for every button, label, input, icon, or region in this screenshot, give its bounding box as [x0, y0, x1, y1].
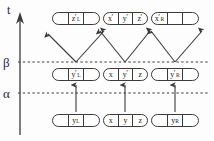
cell-empty[interactable] — [84, 69, 99, 80]
cell-subscript: R — [175, 119, 179, 125]
cell-empty[interactable] — [53, 69, 69, 80]
diagram-canvas: t β α z′Lx′y′z′x′Ry′Lxy′zy′RyLxyzyR — [0, 0, 214, 141]
cell-empty[interactable] — [168, 13, 184, 24]
bottom-left-capsule[interactable]: yL — [52, 114, 100, 127]
cell-prime-mark: ′ — [126, 70, 128, 78]
beta-left-capsule[interactable]: y′L — [52, 68, 100, 81]
cell-y-L[interactable]: yL — [69, 115, 85, 126]
cell-empty[interactable] — [84, 13, 99, 24]
cell-empty[interactable] — [152, 115, 168, 126]
cell-y-prime[interactable]: y′ — [119, 69, 134, 80]
cell-x[interactable]: x — [104, 115, 119, 126]
cell-subscript: L — [77, 17, 80, 23]
time-axis-label: t — [7, 4, 10, 16]
cell-z-prime[interactable]: z′ — [133, 13, 147, 24]
cell-y-prime-R[interactable]: y′R — [168, 69, 184, 80]
beta-level-label: β — [3, 56, 10, 69]
cell-subscript: R — [176, 73, 180, 79]
arrow-left-inward — [76, 31, 104, 62]
cell-subscript: R — [160, 17, 164, 23]
diagonal-transition-arrows — [48, 31, 202, 62]
cell-y-R[interactable]: yR — [168, 115, 184, 126]
bottom-middle-capsule[interactable]: xyz — [103, 114, 148, 127]
cell-x-prime[interactable]: x′ — [104, 13, 119, 24]
cell-empty[interactable] — [183, 69, 198, 80]
cell-empty[interactable] — [84, 115, 99, 126]
time-axis — [16, 12, 24, 135]
cell-subscript: L — [76, 119, 79, 125]
top-left-capsule[interactable]: z′L — [52, 12, 100, 25]
top-middle-capsule[interactable]: x′y′z′ — [103, 12, 148, 25]
cell-base-symbol: x — [109, 117, 113, 125]
cell-base-symbol: z — [138, 71, 142, 79]
arrow-right-inward — [151, 31, 175, 62]
arrow-middle-right — [125, 31, 150, 62]
cell-z[interactable]: z — [133, 115, 147, 126]
cell-base-symbol: z — [138, 117, 142, 125]
cell-y-prime[interactable]: y′ — [119, 13, 134, 24]
alpha-level-label: α — [3, 87, 10, 100]
cell-base-symbol: x — [109, 71, 113, 79]
cell-y-prime-L[interactable]: y′L — [69, 69, 85, 80]
cell-empty[interactable] — [183, 115, 198, 126]
vertical-transition-arrows — [76, 85, 175, 112]
beta-right-capsule[interactable]: y′R — [151, 68, 199, 81]
top-right-capsule[interactable]: x′R — [151, 12, 199, 25]
cell-prime-mark: ′ — [111, 14, 113, 22]
arrow-left-outward — [48, 34, 76, 62]
arrow-right-outward — [175, 31, 202, 62]
arrow-middle-left — [100, 31, 125, 62]
cell-empty[interactable] — [53, 115, 69, 126]
cell-y[interactable]: y — [119, 115, 134, 126]
bottom-right-capsule[interactable]: yR — [151, 114, 199, 127]
cell-empty[interactable] — [183, 13, 198, 24]
cell-empty[interactable] — [53, 13, 69, 24]
cell-x-prime-R[interactable]: x′R — [152, 13, 168, 24]
cell-prime-mark: ′ — [126, 14, 128, 22]
cell-z-prime-L[interactable]: z′L — [69, 13, 85, 24]
cell-empty[interactable] — [152, 69, 168, 80]
cell-z[interactable]: z — [133, 69, 147, 80]
cell-prime-mark: ′ — [141, 14, 143, 22]
beta-middle-capsule[interactable]: xy′z — [103, 68, 148, 81]
cell-subscript: L — [77, 73, 80, 79]
cell-base-symbol: y — [124, 117, 128, 125]
cell-x[interactable]: x — [104, 69, 119, 80]
